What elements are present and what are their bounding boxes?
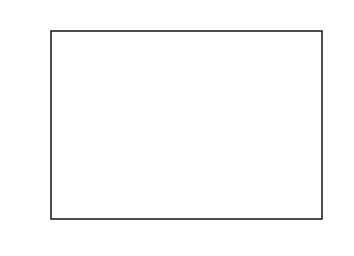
bifurcation-plot bbox=[0, 0, 354, 256]
plot-frame bbox=[51, 31, 322, 219]
